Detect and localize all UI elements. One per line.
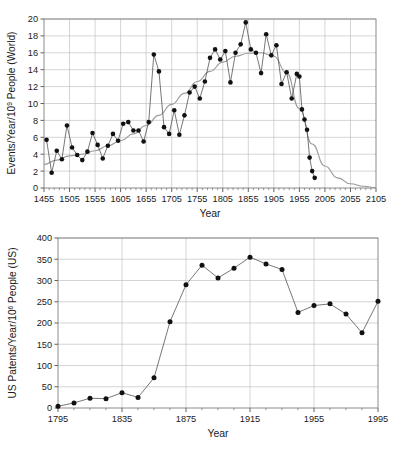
data-point	[56, 404, 61, 409]
x-tick-label: 2055	[340, 194, 360, 204]
x-tick-label: 1835	[112, 414, 132, 424]
data-point	[44, 138, 49, 143]
y-tick-label: 400	[37, 233, 52, 243]
data-point	[223, 49, 228, 54]
data-point	[305, 127, 310, 132]
y-tick-label: 0	[33, 183, 38, 193]
bottom-axis-ticks	[55, 238, 379, 412]
bottom-chart-svg: 179518351875191519551995 050100150200250…	[0, 225, 394, 450]
data-point	[187, 90, 192, 95]
data-point	[296, 310, 301, 315]
data-point	[49, 170, 54, 175]
y-tick-label: 4	[33, 150, 38, 160]
bottom-y-tick-labels: 050100150200250300350400	[37, 233, 52, 413]
data-point	[106, 143, 111, 148]
x-tick-label: 1905	[264, 194, 284, 204]
data-point	[65, 123, 70, 128]
data-point	[284, 70, 289, 75]
y-tick-label: 300	[37, 276, 52, 286]
data-point	[232, 266, 237, 271]
x-tick-label: 1915	[240, 414, 260, 424]
data-point	[95, 143, 100, 148]
top-y-tick-labels: 02468101214161820	[28, 14, 38, 193]
data-point	[269, 53, 274, 58]
data-point	[233, 51, 238, 56]
data-point	[238, 42, 243, 47]
data-point	[312, 303, 317, 308]
data-point	[192, 84, 197, 89]
x-tick-label: 1755	[187, 194, 207, 204]
y-tick-label: 350	[37, 255, 52, 265]
top-y-axis-title: Events/Year/109 People (World)	[6, 32, 17, 175]
data-point	[172, 108, 177, 113]
data-point	[213, 47, 218, 52]
x-tick-label: 1795	[48, 414, 68, 424]
top-x-axis-title: Year	[199, 207, 221, 219]
data-point	[72, 400, 77, 405]
data-point	[152, 375, 157, 380]
data-point	[328, 301, 333, 306]
x-tick-label: 1955	[304, 414, 324, 424]
x-tick-label: 2005	[315, 194, 335, 204]
y-tick-label: 2	[33, 167, 38, 177]
data-point	[259, 71, 264, 76]
y-tick-label: 50	[42, 382, 52, 392]
x-tick-label: 2105	[366, 194, 386, 204]
x-tick-label: 1995	[368, 414, 388, 424]
bottom-x-tick-labels: 179518351875191519551995	[48, 414, 388, 424]
top-gridlines	[44, 19, 376, 188]
data-point	[197, 96, 202, 101]
y-tick-label: 12	[28, 82, 38, 92]
bottom-y-axis-title-post: People (US)	[7, 247, 18, 305]
data-point	[360, 330, 365, 335]
y-tick-label: 16	[28, 48, 38, 58]
data-point	[146, 120, 151, 125]
data-point	[243, 20, 248, 25]
top-y-axis-title-post: People (World)	[6, 32, 17, 103]
data-point	[310, 169, 315, 174]
data-point	[141, 139, 146, 144]
data-point	[376, 299, 381, 304]
data-point	[80, 158, 85, 163]
data-point	[111, 132, 116, 137]
data-point	[297, 74, 302, 79]
y-tick-label: 10	[28, 99, 38, 109]
data-point	[216, 275, 221, 280]
data-point	[280, 267, 285, 272]
data-point	[136, 395, 141, 400]
bottom-y-axis-title: US Patents/Year/106 People (US)	[7, 247, 18, 398]
data-point	[157, 69, 162, 74]
top-chart-svg: 1455150515551605165517051755180518551905…	[0, 0, 394, 225]
data-point	[54, 149, 59, 154]
chart-panel-top: 1455150515551605165517051755180518551905…	[0, 0, 394, 225]
data-point	[90, 131, 95, 136]
x-tick-label: 1605	[110, 194, 130, 204]
data-point	[184, 282, 189, 287]
data-point	[274, 43, 279, 48]
y-tick-label: 0	[47, 403, 52, 413]
y-tick-label: 200	[37, 318, 52, 328]
data-point	[136, 128, 141, 133]
chart-panel-bottom: 179518351875191519551995 050100150200250…	[0, 225, 394, 450]
data-point	[116, 138, 121, 143]
data-point	[208, 56, 213, 61]
y-tick-label: 20	[28, 14, 38, 24]
top-data-points	[44, 20, 317, 180]
figure-container: 1455150515551605165517051755180518551905…	[0, 0, 394, 450]
top-y-axis-title-pre: Events/Year/10	[6, 105, 17, 174]
x-tick-label: 1855	[238, 194, 258, 204]
data-point	[228, 80, 233, 85]
data-point	[203, 79, 208, 84]
data-point	[60, 157, 65, 162]
x-tick-label: 1555	[85, 194, 105, 204]
data-point	[254, 51, 259, 56]
data-point	[344, 312, 349, 317]
data-point	[300, 107, 305, 112]
data-point	[249, 47, 254, 52]
y-tick-label: 150	[37, 340, 52, 350]
y-tick-label: 6	[33, 133, 38, 143]
data-point	[152, 52, 157, 57]
x-tick-label: 1875	[176, 414, 196, 424]
data-point	[182, 113, 187, 118]
x-tick-label: 1705	[161, 194, 181, 204]
